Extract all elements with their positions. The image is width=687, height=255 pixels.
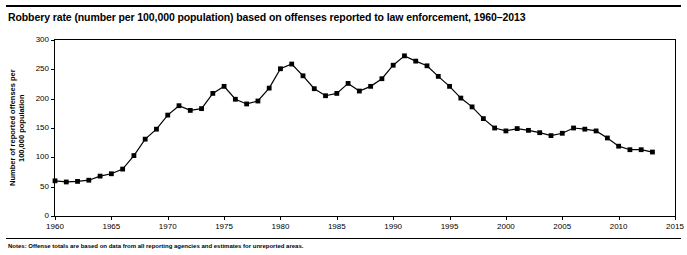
data-series-robbery-rate [0,0,687,255]
figure-note: Notes: Offense totals are based on data … [8,243,678,249]
figure-container: Robbery rate (number per 100,000 populat… [0,0,687,255]
bottom-rule [6,238,681,239]
